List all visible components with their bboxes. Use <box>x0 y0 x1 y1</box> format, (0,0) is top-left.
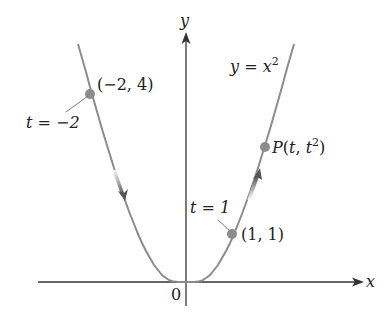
curve-equation-label: y = x2 <box>229 55 279 76</box>
point-start-coords: (−2, 4) <box>97 75 153 94</box>
x-axis <box>38 278 364 287</box>
point-unit-coords: (1, 1) <box>241 225 284 244</box>
x-axis-label: x <box>366 272 375 291</box>
point-unit-dot <box>227 229 237 239</box>
y-axis-label: y <box>179 11 190 30</box>
point-unit-leader <box>218 220 230 231</box>
point-start-leader <box>66 96 88 112</box>
origin-label: 0 <box>171 285 181 304</box>
point-general-dot <box>260 142 270 152</box>
point-general-label: P(t, t2) <box>271 136 325 157</box>
direction-arrow-down-icon <box>114 170 128 201</box>
y-axis <box>182 32 191 306</box>
point-start-param: t = −2 <box>26 113 80 132</box>
parabola-diagram: x y 0 [data-name="parabola-curve"]{displ… <box>0 0 387 321</box>
point-unit-param: t = 1 <box>190 198 230 217</box>
